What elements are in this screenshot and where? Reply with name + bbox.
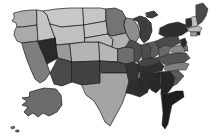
- state-MN[interactable]: Minnesota: [106, 8, 126, 36]
- state-NM[interactable]: New Mexico: [72, 61, 100, 85]
- state-OR[interactable]: Oregon: [14, 25, 38, 43]
- state-AL[interactable]: Alabama: [150, 72, 161, 93]
- state-CT[interactable]: Connecticut: [191, 32, 197, 36]
- us-choropleth-svg: Washington Oregon California Nevada Idah…: [0, 0, 220, 139]
- state-MS[interactable]: Mississippi: [139, 72, 151, 91]
- state-VT[interactable]: Vermont: [186, 18, 192, 28]
- state-RI[interactable]: Rhode Island: [197, 32, 200, 35]
- state-CO[interactable]: Colorado: [70, 42, 100, 62]
- us-choropleth-map-figure: Washington Oregon California Nevada Idah…: [0, 0, 220, 139]
